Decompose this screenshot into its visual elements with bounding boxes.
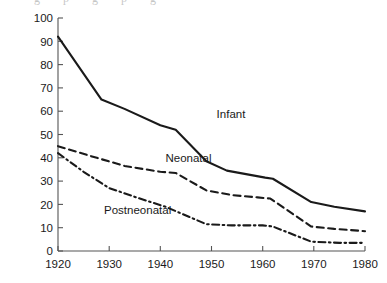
- y-tick-label: 90: [40, 36, 53, 48]
- chart-figure: g p g p g 0 10 20 30: [0, 0, 387, 283]
- series-label-infant: Infant: [217, 108, 247, 120]
- y-tick-label: 50: [40, 129, 53, 141]
- mortality-rate-line-chart: 0 10 20 30 40 50 60 70 80 90 100: [0, 0, 387, 283]
- x-tick-label: 1940: [148, 258, 174, 270]
- y-tick-label: 100: [34, 12, 53, 24]
- series-line-neonatal: [58, 146, 365, 231]
- series-label-neonatal: Neonatal: [165, 152, 211, 164]
- series-annotations: Infant Neonatal Postneonatal: [104, 108, 246, 216]
- y-tick-label: 0: [47, 245, 53, 257]
- series-line-postneonatal: [58, 153, 365, 243]
- y-tick-label: 60: [40, 105, 53, 117]
- x-tick-label: 1960: [250, 258, 276, 270]
- series-line-infant: [58, 37, 365, 212]
- x-axis-ticks: [58, 246, 365, 251]
- x-tick-label: 1920: [45, 258, 71, 270]
- x-tick-label: 1930: [96, 258, 122, 270]
- y-tick-label: 40: [40, 152, 53, 164]
- x-axis: 1920 1930 1940 1950 1960 1970 1980: [45, 246, 378, 270]
- series-label-postneonatal: Postneonatal: [104, 204, 171, 216]
- y-tick-label: 10: [40, 222, 53, 234]
- y-axis: 0 10 20 30 40 50 60 70 80 90 100: [34, 12, 63, 257]
- y-axis-ticks: [58, 18, 63, 251]
- x-axis-tick-labels: 1920 1930 1940 1950 1960 1970 1980: [45, 258, 378, 270]
- x-tick-label: 1980: [352, 258, 378, 270]
- y-axis-tick-labels: 0 10 20 30 40 50 60 70 80 90 100: [34, 12, 53, 257]
- y-tick-label: 70: [40, 82, 53, 94]
- y-tick-label: 80: [40, 59, 53, 71]
- y-tick-label: 30: [40, 175, 53, 187]
- y-tick-label: 20: [40, 199, 53, 211]
- x-tick-label: 1950: [199, 258, 225, 270]
- x-tick-label: 1970: [301, 258, 327, 270]
